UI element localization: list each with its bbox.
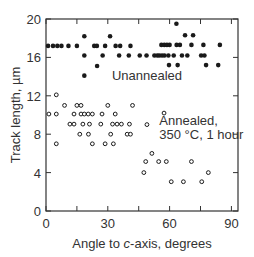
filled-circle-marker xyxy=(191,33,196,38)
open-circle-marker xyxy=(78,132,82,136)
open-circle-marker xyxy=(82,112,86,116)
filled-circle-marker xyxy=(204,63,209,68)
filled-circle-marker xyxy=(127,53,132,58)
open-circle-marker xyxy=(200,180,204,184)
filled-circle-marker xyxy=(166,53,171,58)
open-circle-marker xyxy=(99,122,103,126)
filled-circle-marker xyxy=(82,34,87,39)
open-circle-marker xyxy=(86,112,90,116)
open-circle-marker xyxy=(72,112,76,116)
filled-circle-marker xyxy=(185,53,190,58)
filled-circle-marker xyxy=(189,43,194,48)
open-circle-marker xyxy=(109,132,113,136)
open-circle-marker xyxy=(131,104,135,108)
open-circle-marker xyxy=(206,171,210,175)
filled-circle-marker xyxy=(108,34,113,39)
y-tick-label: 20 xyxy=(27,12,41,27)
y-tick-label: 12 xyxy=(27,89,41,104)
open-circle-marker xyxy=(182,180,186,184)
filled-circle-marker xyxy=(59,44,64,49)
x-axis-label: Angle to c-axis, degrees xyxy=(72,236,212,251)
filled-circle-marker xyxy=(113,44,118,49)
open-circle-marker xyxy=(129,132,133,136)
filled-circle-marker xyxy=(175,63,180,68)
filled-circle-marker xyxy=(118,44,123,49)
open-circle-marker xyxy=(90,142,94,146)
open-circle-marker xyxy=(88,122,92,126)
open-circle-marker xyxy=(103,142,107,146)
open-circle-marker xyxy=(111,122,115,126)
open-circle-marker xyxy=(54,112,58,116)
filled-circle-marker xyxy=(82,53,87,58)
x-tick-label: 0 xyxy=(42,216,49,231)
open-circle-marker xyxy=(113,112,117,116)
open-circle-marker xyxy=(150,152,154,156)
annotation-2: 350 °C, 1 hour xyxy=(159,127,244,142)
filled-circle-marker xyxy=(82,73,87,78)
open-circle-marker xyxy=(79,104,83,108)
open-circle-marker xyxy=(100,112,104,116)
filled-circle-marker xyxy=(117,53,122,58)
filled-circle-marker xyxy=(51,44,56,49)
filled-circle-marker xyxy=(162,53,167,58)
open-circle-marker xyxy=(144,160,148,164)
open-circle-marker xyxy=(128,122,132,126)
x-tick-label: 90 xyxy=(224,216,238,231)
filled-circle-marker xyxy=(202,53,207,58)
open-circle-marker xyxy=(115,122,119,126)
filled-circle-marker xyxy=(180,53,185,58)
filled-circle-marker xyxy=(100,53,105,58)
filled-circle-marker xyxy=(55,44,60,49)
open-circle-marker xyxy=(75,104,79,108)
filled-circle-marker xyxy=(167,43,172,48)
y-tick-label: 0 xyxy=(34,204,41,219)
track-length-scatter-chart: 0306090048121620 UnannealedAnnealed,350 … xyxy=(0,0,254,257)
open-circle-marker xyxy=(68,122,72,126)
open-circle-marker xyxy=(81,122,85,126)
annotation-1: Annealed, xyxy=(159,113,218,128)
filled-circle-marker xyxy=(201,43,206,48)
filled-circle-marker xyxy=(103,44,108,49)
open-circle-marker xyxy=(72,122,76,126)
open-circle-marker xyxy=(54,142,58,146)
open-circle-marker xyxy=(142,171,146,175)
open-circle-marker xyxy=(63,104,67,108)
y-axis-label: Track length, µm xyxy=(8,67,23,164)
y-tick-label: 16 xyxy=(27,50,41,65)
filled-circle-marker xyxy=(174,22,179,27)
filled-circle-marker xyxy=(144,53,149,58)
filled-circle-marker xyxy=(95,44,100,49)
filled-circle-marker xyxy=(137,53,142,58)
open-circle-marker xyxy=(164,160,168,164)
open-circle-marker xyxy=(119,122,123,126)
open-circle-marker xyxy=(87,132,91,136)
open-circle-marker xyxy=(54,93,58,97)
filled-circle-marker xyxy=(75,44,80,49)
x-tick-label: 30 xyxy=(101,216,115,231)
filled-circle-marker xyxy=(183,33,188,38)
y-tick-label: 8 xyxy=(34,127,41,142)
filled-circle-marker xyxy=(66,44,71,49)
filled-circle-marker xyxy=(95,64,100,69)
filled-circle-marker xyxy=(171,53,176,58)
open-circle-marker xyxy=(106,104,110,108)
x-tick-label: 60 xyxy=(162,216,176,231)
open-circle-marker xyxy=(111,142,115,146)
annotation-0: Unannealed xyxy=(112,68,182,83)
y-tick-label: 4 xyxy=(34,166,41,181)
open-circle-marker xyxy=(145,123,149,127)
filled-circle-marker xyxy=(167,63,172,68)
filled-circle-marker xyxy=(46,44,51,49)
filled-circle-marker xyxy=(216,63,221,68)
filled-circle-marker xyxy=(128,44,133,49)
data-points xyxy=(46,22,222,184)
open-circle-marker xyxy=(47,112,51,116)
filled-circle-marker xyxy=(218,43,223,48)
filled-circle-marker xyxy=(178,43,183,48)
open-circle-marker xyxy=(157,160,161,164)
open-circle-marker xyxy=(169,180,173,184)
open-circle-marker xyxy=(90,112,94,116)
open-circle-marker xyxy=(190,160,194,164)
